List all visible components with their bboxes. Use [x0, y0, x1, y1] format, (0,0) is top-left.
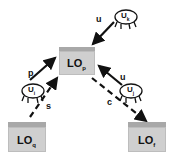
edge-label-c: c [107, 97, 112, 107]
user-top-sub: k [127, 16, 130, 22]
lo-left-node: LOq [8, 122, 48, 152]
lo-right-label: LO [138, 134, 153, 146]
user-left-sub: i [34, 90, 35, 96]
edge-u-top [93, 22, 114, 44]
edge-label-s: s [46, 101, 51, 111]
user-right-sub: j [133, 90, 134, 96]
edge-label-p: p [28, 68, 34, 78]
edge-label-u-right: u [120, 72, 126, 82]
edge-c [92, 78, 146, 121]
edge-label-u-top: u [96, 14, 102, 24]
edge-u-right [99, 66, 122, 85]
lo-right-sub: f [153, 142, 155, 148]
lo-center-sub: p [82, 65, 86, 71]
lo-left-label: LO [17, 134, 32, 146]
lo-right-node: LOf [128, 122, 168, 152]
lo-center-label: LO [67, 57, 82, 69]
lo-left-sub: q [32, 142, 36, 148]
lo-center-node: LOp [59, 47, 97, 75]
